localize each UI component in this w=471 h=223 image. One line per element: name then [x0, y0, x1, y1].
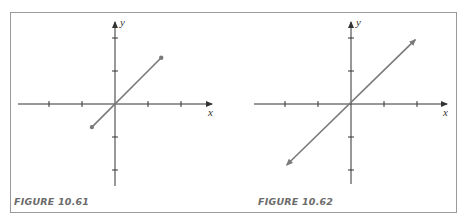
y-axis-label: y: [355, 16, 361, 28]
line-segment: [92, 58, 161, 127]
endpoint-dot: [159, 56, 163, 60]
figure-caption-10-61: FIGURE 10.61: [14, 196, 89, 207]
x-axis-label: x: [207, 106, 213, 118]
figures-canvas: xy xy: [0, 0, 471, 223]
figure-10-62: xy: [254, 16, 448, 184]
y-axis-label: y: [119, 16, 125, 28]
figure-10-61: xy: [18, 16, 213, 186]
endpoint-dot: [90, 125, 94, 129]
x-axis-label: x: [442, 106, 448, 118]
figure-caption-10-62: FIGURE 10.62: [258, 196, 333, 207]
